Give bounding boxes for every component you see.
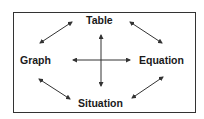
arrow-equation-situation xyxy=(132,77,163,98)
arrows xyxy=(0,0,204,119)
arrow-table-equation xyxy=(130,22,162,43)
arrow-graph-situation xyxy=(39,79,70,99)
arrow-table-graph xyxy=(40,22,72,43)
